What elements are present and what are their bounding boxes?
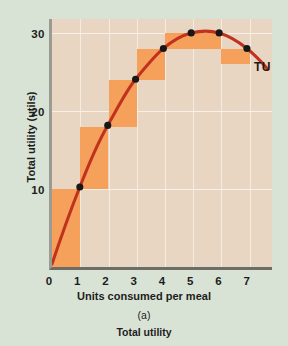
panel-caption: Total utility [0,326,288,338]
x-tick-label: 1 [74,275,80,287]
data-point-marker [160,45,167,52]
x-axis-title: Units consumed per meal [0,290,288,302]
series-label-tu: TU [254,60,271,74]
data-point-marker [243,45,250,52]
total-utility-curve [52,19,272,267]
x-tick-label: 3 [130,275,136,287]
x-tick-label: 4 [159,275,165,287]
y-tick-label: 30 [31,28,45,40]
data-point-marker [216,29,223,36]
data-point-marker [132,76,139,83]
panel-identifier: (a) [0,309,288,321]
x-tick-label: 7 [243,275,249,287]
data-point-marker [104,122,111,129]
x-tick-label: 5 [187,275,193,287]
figure-total-utility: 30 20 10 Total utility (utils) [0,0,288,346]
y-axis-title: Total utility (utils) [25,57,37,217]
data-point-marker [188,29,195,36]
curve-path [52,31,268,264]
plot-inner [52,19,272,267]
x-tick-label: 0 [46,275,52,287]
x-tick-label: 2 [102,275,108,287]
plot-area [49,19,272,270]
x-tick-label: 6 [215,275,221,287]
data-point-marker [76,183,83,190]
